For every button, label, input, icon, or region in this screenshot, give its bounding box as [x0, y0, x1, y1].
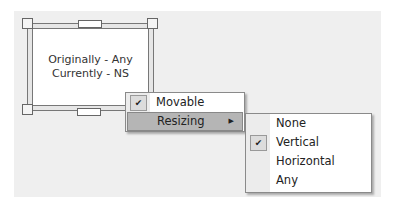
- menu-item-label: None: [276, 116, 306, 130]
- menu-item-label: Movable: [156, 95, 204, 109]
- resize-handle-top[interactable]: [78, 20, 102, 28]
- check-icon: ✔: [130, 95, 147, 111]
- menu-item-label: Vertical: [276, 135, 319, 149]
- submenu-item-none[interactable]: None: [246, 114, 371, 133]
- chevron-right-icon: ▶: [229, 113, 234, 130]
- resize-handle-top-left[interactable]: [22, 18, 33, 29]
- menu-item-label: Any: [276, 173, 298, 187]
- context-menu: ✔ Movable Resizing ▶: [125, 92, 245, 132]
- check-icon: ✔: [250, 135, 267, 151]
- submenu-item-vertical[interactable]: ✔ Vertical: [246, 133, 371, 152]
- submenu-item-any[interactable]: Any: [246, 171, 371, 190]
- current-mode-label: Currently - NS: [52, 67, 129, 81]
- menu-item-resizing[interactable]: Resizing ▶: [127, 112, 243, 131]
- original-mode-label: Originally - Any: [48, 53, 133, 67]
- resize-handle-bottom[interactable]: [77, 108, 101, 116]
- resize-handle-top-right[interactable]: [147, 18, 158, 29]
- menu-item-label: Resizing: [157, 114, 205, 128]
- submenu-item-horizontal[interactable]: Horizontal: [246, 152, 371, 171]
- resizing-submenu: None ✔ Vertical Horizontal Any: [245, 113, 372, 193]
- resize-handle-bottom-left[interactable]: [22, 104, 33, 115]
- menu-item-label: Horizontal: [276, 154, 335, 168]
- menu-item-movable[interactable]: ✔ Movable: [126, 93, 244, 112]
